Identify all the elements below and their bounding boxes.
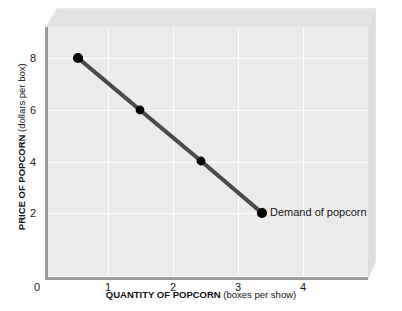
gridline-vertical bbox=[173, 27, 174, 276]
y-axis-spine bbox=[45, 27, 48, 277]
x-axis-title: QUANTITY OF POPCORN (boxes per show) bbox=[0, 290, 402, 300]
demand-curve-chart: 8 6 4 2 0 1 2 3 4 Demand of popcorn QUAN… bbox=[0, 0, 402, 311]
gridline-vertical bbox=[108, 27, 109, 276]
y-axis-title-main: PRICE OF POPCORN bbox=[16, 135, 27, 231]
chart-frame-3d bbox=[36, 8, 376, 280]
x-axis-spine bbox=[45, 277, 368, 280]
gridline-horizontal bbox=[48, 110, 368, 111]
gridline-vertical bbox=[238, 27, 239, 276]
x-axis-title-main: QUANTITY OF POPCORN bbox=[106, 289, 221, 300]
y-axis-title-units: (dollars per box) bbox=[16, 63, 27, 132]
frame-bevel-top bbox=[45, 8, 376, 27]
gridline-horizontal bbox=[48, 58, 368, 59]
frame-bevel-right bbox=[368, 8, 376, 280]
plot-area bbox=[48, 27, 368, 276]
gridline-horizontal bbox=[48, 162, 368, 163]
series-annotation-label: Demand of popcorn bbox=[270, 207, 367, 218]
y-axis-title: PRICE OF POPCORN (dollars per box) bbox=[17, 47, 27, 247]
x-axis-title-units: (boxes per show) bbox=[223, 289, 296, 300]
gridline-vertical bbox=[303, 27, 304, 276]
